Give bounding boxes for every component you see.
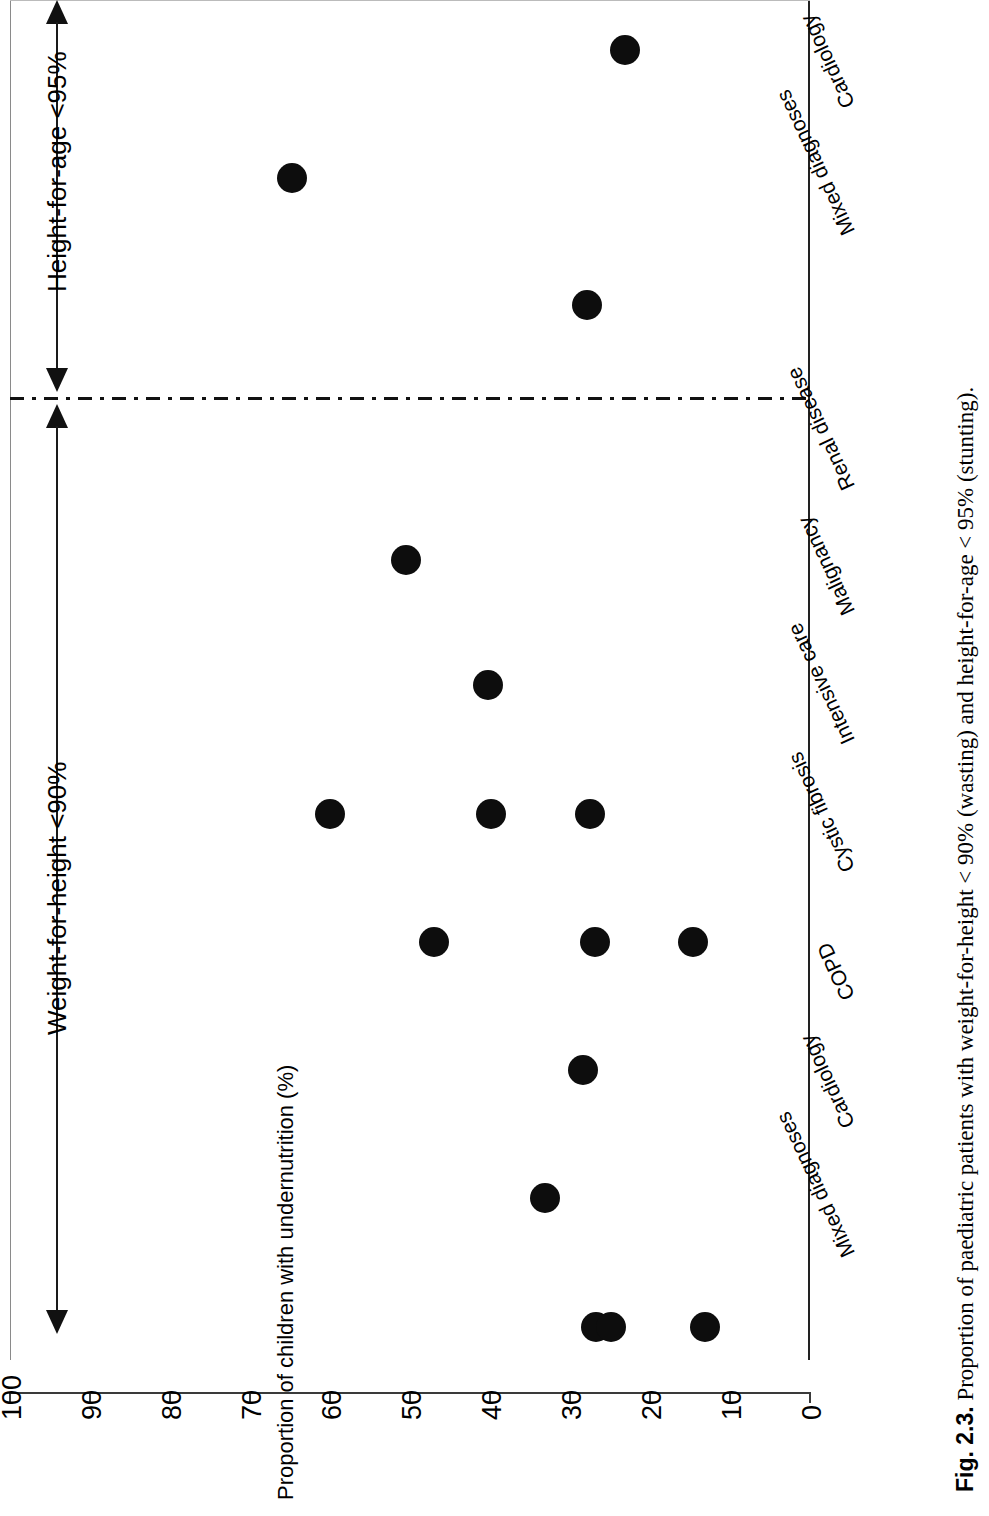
bracket-label-wasting: Weight-for-height <90% [42, 762, 73, 1035]
figure-caption-text: Proportion of paediatric patients with w… [953, 387, 978, 1401]
axis-tick-label: 0 [797, 1405, 828, 1420]
data-point [391, 545, 421, 575]
data-point [580, 927, 610, 957]
axis-tick-label: 90 [77, 1390, 108, 1420]
data-point [473, 670, 503, 700]
data-point [596, 1312, 626, 1342]
plot-frame-top [10, 0, 810, 1]
data-point [572, 290, 602, 320]
chart-plot-area [10, 0, 810, 1360]
data-point [690, 1312, 720, 1342]
data-point [419, 927, 449, 957]
axis-tick-label: 40 [477, 1390, 508, 1420]
data-point [610, 35, 640, 65]
data-point [315, 799, 345, 829]
bracket-label-stunting: Height-for-age <95% [42, 51, 73, 292]
axis-tick-label: 50 [397, 1390, 428, 1420]
data-point [530, 1183, 560, 1213]
axis-tick [809, 1392, 811, 1403]
data-point [678, 927, 708, 957]
axis-tick-label: 60 [317, 1390, 348, 1420]
figure-number: Fig. 2.3. [952, 1406, 978, 1492]
figure-caption: Fig. 2.3. Proportion of paediatric patie… [952, 387, 979, 1492]
data-point [575, 799, 605, 829]
category-label: COPD [812, 939, 859, 1004]
axis-title: Proportion of children with undernutriti… [273, 1065, 299, 1500]
group-separator-line [10, 396, 810, 400]
axis-tick-label: 10 [717, 1390, 748, 1420]
axis-tick-label: 20 [637, 1390, 668, 1420]
plot-frame-left [10, 0, 11, 1360]
axis-tick-label: 100 [0, 1375, 28, 1420]
axis-tick-label: 30 [557, 1390, 588, 1420]
axis-tick-label: 70 [237, 1390, 268, 1420]
data-point [476, 799, 506, 829]
data-point [568, 1055, 598, 1085]
axis-tick-label: 80 [157, 1390, 188, 1420]
data-point [277, 163, 307, 193]
